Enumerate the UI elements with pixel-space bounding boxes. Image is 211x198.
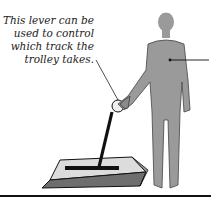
lever-base bbox=[42, 157, 148, 188]
caption-pointer-line bbox=[96, 60, 118, 100]
lever-slot bbox=[65, 166, 119, 170]
trolley-lever-illustration bbox=[0, 0, 211, 198]
